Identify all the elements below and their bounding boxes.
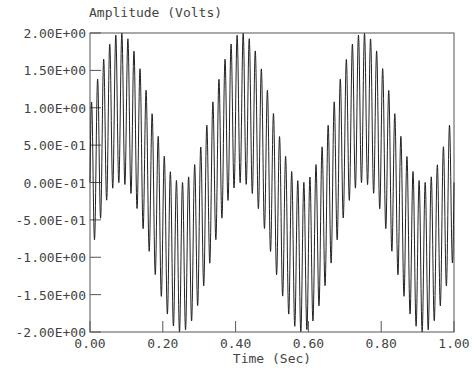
- y-axis: 2.00E+001.50E+001.00E+005.00E-010.00E-01…: [16, 26, 101, 340]
- signal-line: [90, 33, 454, 332]
- chart: Amplitude (Volts) 2.00E+001.50E+001.00E+…: [0, 0, 476, 378]
- x-tick-label: 0.20: [147, 336, 178, 351]
- x-tick-label: 0.40: [220, 336, 251, 351]
- x-tick-label: 1.00: [438, 336, 469, 351]
- y-tick-label: -5.00E-01: [16, 213, 86, 228]
- y-tick-label: 2.00E+00: [23, 26, 86, 41]
- y-axis-title: Amplitude (Volts): [89, 5, 222, 20]
- x-tick-label: 0.00: [74, 336, 105, 351]
- x-axis-title: Time (Sec): [233, 351, 311, 366]
- y-tick-label: 5.00E-01: [23, 138, 86, 153]
- y-tick-label: -1.50E+00: [16, 288, 86, 303]
- y-tick-label: -1.00E+00: [16, 250, 86, 265]
- y-tick-label: 1.00E+00: [23, 101, 86, 116]
- y-tick-label: 1.50E+00: [23, 63, 86, 78]
- x-tick-label: 0.80: [366, 336, 397, 351]
- x-axis: 0.000.200.400.600.801.00: [74, 321, 469, 351]
- x-tick-label: 0.60: [293, 336, 324, 351]
- y-tick-label: 0.00E-01: [23, 176, 86, 191]
